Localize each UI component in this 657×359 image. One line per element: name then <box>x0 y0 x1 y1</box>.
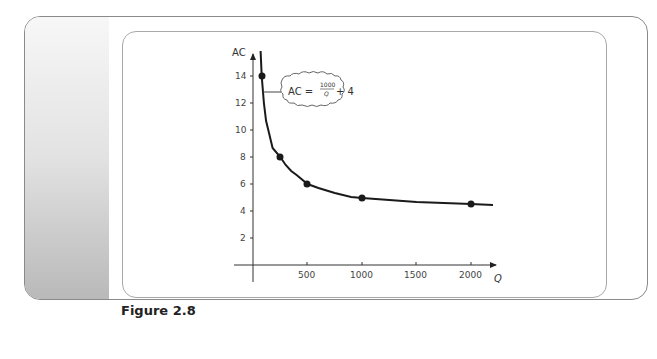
callout-numerator: 1000 <box>320 81 335 88</box>
data-point <box>259 73 266 80</box>
x-tick-label: 500 <box>298 270 315 280</box>
x-tick-label: 1000 <box>350 270 373 280</box>
x-tick-label: 1500 <box>404 270 427 280</box>
y-tick-label: 12 <box>235 98 246 108</box>
data-point <box>304 181 311 188</box>
x-axis-label: Q <box>494 273 502 284</box>
callout-denominator: Q <box>324 90 329 97</box>
callout-rhs: + 4 <box>336 86 354 97</box>
y-axis-label: AC <box>232 47 246 58</box>
y-tick-label: 14 <box>235 71 247 81</box>
data-point <box>468 201 475 208</box>
y-tick-label: 8 <box>240 152 246 162</box>
callout-lhs: AC = <box>288 86 313 97</box>
data-point <box>277 154 284 161</box>
y-tick-label: 6 <box>240 179 246 189</box>
y-tick-label: 4 <box>240 206 246 216</box>
equation-callout: AC = 1000 Q + 4 <box>263 72 354 107</box>
x-tick-label: 2000 <box>459 270 482 280</box>
y-tick-label: 2 <box>240 233 246 243</box>
y-tick-label: 10 <box>235 125 247 135</box>
data-point <box>359 195 366 202</box>
chart-svg: AC Q 2 4 6 8 10 12 14 500 1000 1500 2000… <box>0 0 657 359</box>
